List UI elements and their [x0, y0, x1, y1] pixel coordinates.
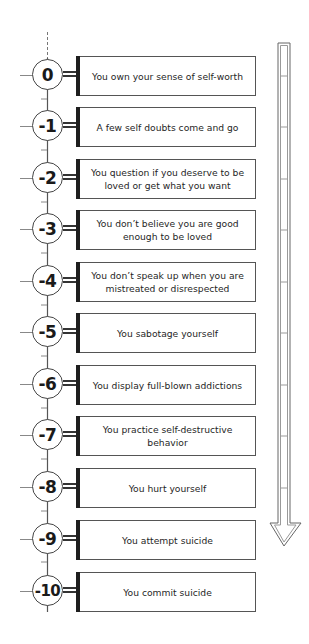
level-description: You don’t speak up when you are mistreat…: [80, 262, 256, 302]
level-row-minus-1: -1 A few self doubts come and go: [0, 107, 309, 147]
level-score-badge: -2: [32, 162, 63, 193]
level-score-badge: -6: [32, 368, 63, 399]
connector: [63, 174, 77, 180]
level-score-badge: -1: [32, 110, 63, 141]
level-score-badge: -8: [32, 471, 63, 502]
level-description: You own your sense of self-worth: [80, 56, 256, 96]
level-description: You commit suicide: [80, 572, 256, 612]
level-score-badge: -5: [32, 316, 63, 347]
connector: [63, 328, 77, 334]
self-worth-scale-diagram: 0 You own your sense of self-worth -1 A …: [0, 0, 309, 644]
level-description: You don’t believe you are good enough to…: [80, 210, 256, 250]
level-row-minus-3: -3 You don’t believe you are good enough…: [0, 210, 309, 250]
connector: [63, 225, 77, 231]
level-row-minus-2: -2 You question if you deserve to be lov…: [0, 159, 309, 199]
connector: [63, 535, 77, 541]
level-score-badge: -3: [32, 213, 63, 244]
level-row-minus-5: -5 You sabotage yourself: [0, 313, 309, 353]
level-description: A few self doubts come and go: [80, 107, 256, 147]
connector: [63, 277, 77, 283]
level-score-badge: -10: [32, 575, 63, 606]
level-score-badge: -7: [32, 419, 63, 450]
level-description: You display full-blown addictions: [80, 365, 256, 405]
level-description: You question if you deserve to be loved …: [80, 159, 256, 199]
connector: [63, 587, 77, 593]
connector: [63, 431, 77, 437]
level-row-minus-10: -10 You commit suicide: [0, 572, 309, 612]
level-score-badge: -4: [32, 265, 63, 296]
level-row-minus-4: -4 You don’t speak up when you are mistr…: [0, 262, 309, 302]
level-row-minus-6: -6 You display full-blown addictions: [0, 365, 309, 405]
level-description: You hurt yourself: [80, 468, 256, 508]
level-description: You practice self-destructive behavior: [80, 416, 256, 456]
level-score-badge: -9: [32, 523, 63, 554]
connector: [63, 71, 77, 77]
level-row-minus-7: -7 You practice self-destructive behavio…: [0, 416, 309, 456]
connector: [63, 483, 77, 489]
level-row-minus-8: -8 You hurt yourself: [0, 468, 309, 508]
level-description: You attempt suicide: [80, 520, 256, 560]
level-row-minus-9: -9 You attempt suicide: [0, 520, 309, 560]
level-row-0: 0 You own your sense of self-worth: [0, 56, 309, 96]
level-score-badge: 0: [32, 59, 63, 90]
connector: [63, 380, 77, 386]
connector: [63, 122, 77, 128]
level-description: You sabotage yourself: [80, 313, 256, 353]
